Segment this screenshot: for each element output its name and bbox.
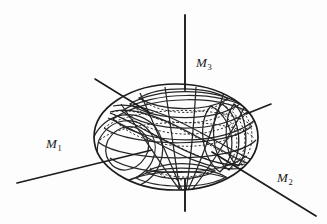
axis-label-m3: M3: [196, 55, 211, 71]
axis-label-m1-subscript: 1: [58, 143, 62, 153]
figure-container: M1 M2 M3: [0, 0, 327, 224]
axis-label-m2: M2: [277, 170, 292, 186]
angular-momentum-sphere-diagram: [0, 0, 327, 224]
axis-label-m2-subscript: 2: [289, 177, 293, 187]
axis-label-m1: M1: [46, 136, 61, 152]
axis-label-m1-letter: M: [46, 136, 57, 151]
axis-label-m2-letter: M: [277, 170, 288, 185]
axis-label-m3-letter: M: [196, 55, 207, 70]
axis-label-m3-subscript: 3: [208, 62, 212, 72]
scan-grain: [0, 0, 327, 224]
